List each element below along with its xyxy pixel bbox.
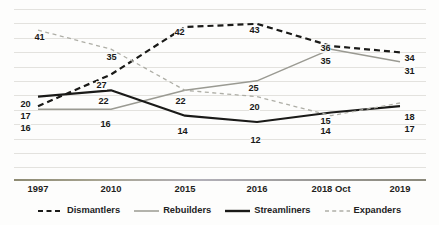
legend-item-dismantlers[interactable]: Dismantlers — [38, 206, 120, 215]
x-axis-tick-2018-oct: 2018 Oct — [311, 184, 350, 193]
data-point-label: 22 — [175, 97, 186, 106]
legend-swatch-streamliners-icon — [225, 207, 250, 215]
data-point-label: 18 — [404, 113, 415, 122]
data-point-label: 43 — [249, 26, 260, 35]
data-point-label: 14 — [177, 127, 188, 136]
data-point-label: 15 — [320, 117, 331, 126]
data-point-label: 36 — [320, 44, 331, 53]
data-point-label: 16 — [20, 124, 31, 133]
data-point-label: 41 — [34, 33, 45, 42]
data-point-label: 17 — [20, 112, 31, 121]
data-point-label: 25 — [248, 84, 259, 93]
x-axis-tick-2015: 2015 — [175, 184, 196, 193]
data-point-label: 27 — [96, 81, 107, 90]
data-point-label: 14 — [320, 127, 331, 136]
data-point-label: 12 — [250, 136, 261, 145]
legend-item-streamliners[interactable]: Streamliners — [225, 206, 310, 215]
legend-item-expanders[interactable]: Expanders — [325, 206, 402, 215]
x-axis-tick-1997: 1997 — [28, 184, 49, 193]
x-axis-tick-2016: 2016 — [247, 184, 268, 193]
data-point-label: 20 — [249, 103, 260, 112]
x-axis-line — [14, 179, 426, 181]
data-point-label: 34 — [404, 54, 415, 63]
data-point-label: 42 — [174, 28, 185, 37]
x-axis-tick-2010: 2010 — [101, 184, 122, 193]
series-line-rebuilders — [38, 49, 400, 109]
series-line-dismantlers — [38, 24, 400, 106]
legend-label: Streamliners — [254, 206, 310, 215]
data-point-label: 35 — [106, 53, 117, 62]
legend-label: Rebuilders — [163, 206, 211, 215]
series-line-streamliners — [38, 90, 400, 122]
series-layer — [0, 0, 439, 176]
legend-swatch-rebuilders-icon — [134, 207, 159, 215]
legend-label: Dismantlers — [67, 206, 120, 215]
data-point-label: 20 — [20, 100, 31, 109]
data-point-label: 35 — [320, 57, 331, 66]
plot-area: 4120171635272216422214432520123635151434… — [0, 0, 439, 176]
series-line-expanders — [38, 30, 400, 116]
legend-swatch-dismantlers-icon — [38, 207, 63, 215]
legend-swatch-expanders-icon — [325, 207, 350, 215]
x-axis-tick-2019: 2019 — [390, 184, 411, 193]
chart-legend: DismantlersRebuildersStreamlinersExpande… — [0, 203, 439, 219]
line-chart: 4120171635272216422214432520123635151434… — [0, 0, 439, 225]
data-point-label: 22 — [98, 97, 109, 106]
legend-item-rebuilders[interactable]: Rebuilders — [134, 206, 211, 215]
data-point-label: 31 — [404, 67, 415, 76]
data-point-label: 16 — [100, 120, 111, 129]
legend-label: Expanders — [354, 206, 402, 215]
data-point-label: 17 — [404, 125, 415, 134]
x-axis-tick-labels: 19972010201520162018 Oct2019 — [0, 184, 439, 198]
